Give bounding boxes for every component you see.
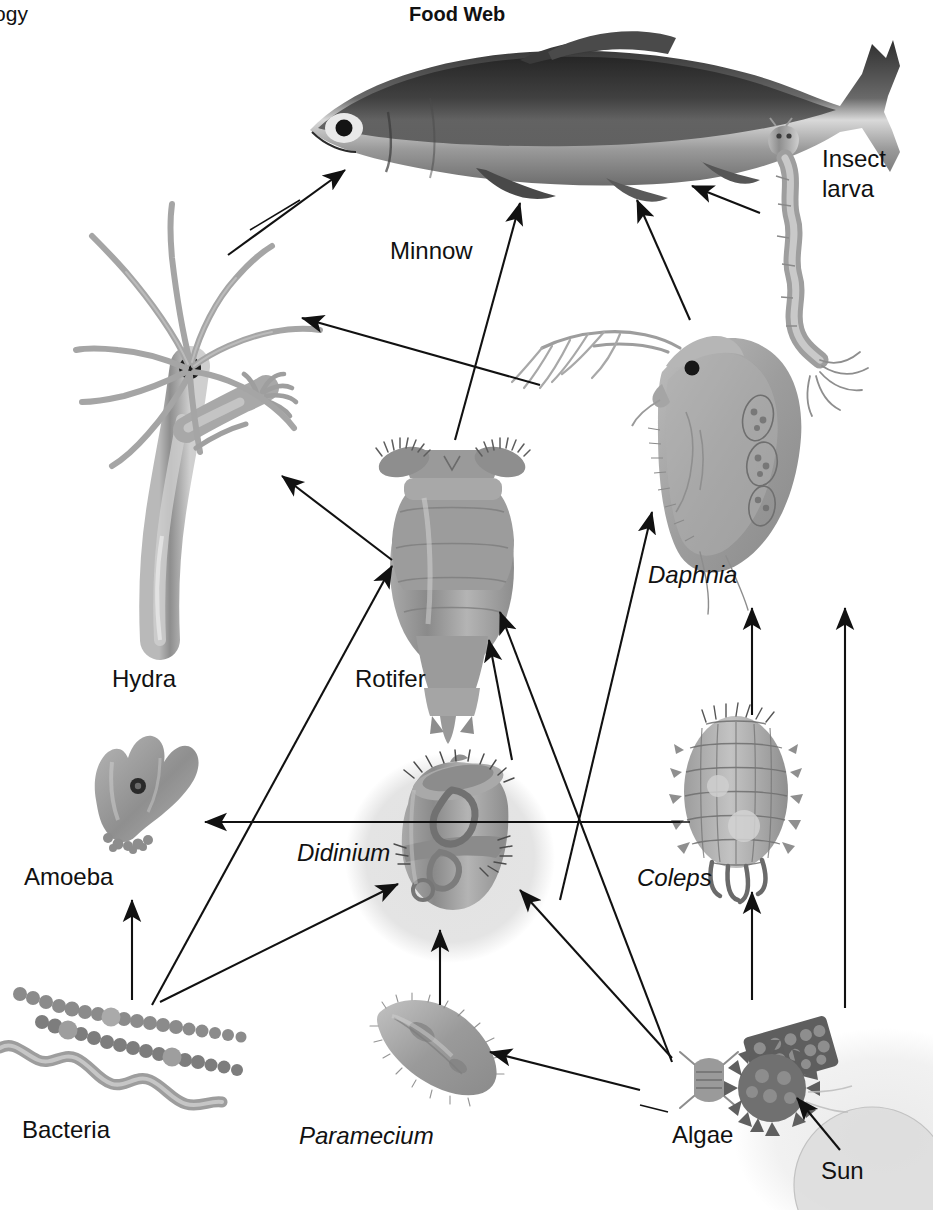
- label-daphnia: Daphnia: [648, 562, 737, 589]
- arrow-algae-to-daphnia: [560, 512, 652, 900]
- label-minnow: Minnow: [390, 238, 473, 265]
- food-web-arrows-layer: [0, 0, 933, 1210]
- arrow-didinium-to-rotifer: [489, 640, 512, 760]
- label-rotifer: Rotifer: [355, 666, 426, 693]
- arrow-bacteria-to-rotifer: [152, 566, 392, 1005]
- arrow-algae-to-didinium: [520, 890, 672, 1058]
- leader-algae-label: [640, 1105, 668, 1112]
- label-larva: larva: [822, 176, 874, 203]
- label-didinium: Didinium: [297, 840, 390, 867]
- arrow-sun-to-algae: [797, 1098, 840, 1150]
- label-hydra: Hydra: [112, 666, 176, 693]
- label-bacteria: Bacteria: [22, 1117, 110, 1144]
- arrow-hydra-to-minnow: [228, 170, 345, 255]
- arrow-daphnia-to-minnow: [637, 200, 690, 320]
- label-insect: Insect: [822, 146, 886, 173]
- figure-title: Food Web: [409, 3, 505, 25]
- running-head: ogy: [0, 2, 28, 26]
- label-amoeba: Amoeba: [24, 864, 113, 891]
- label-algae: Algae: [672, 1122, 733, 1149]
- arrow-algae-to-paramecium: [490, 1052, 640, 1090]
- label-sun: Sun: [821, 1158, 864, 1185]
- leader-hydra-label: [250, 200, 300, 230]
- label-paramecium: Paramecium: [299, 1123, 434, 1150]
- arrow-daphnia-to-hydra: [302, 318, 540, 385]
- label-coleps: Coleps: [637, 865, 712, 892]
- arrow-bacteria-to-didinium: [160, 884, 398, 1002]
- arrow-rotifer-to-hydra: [282, 476, 392, 560]
- arrow-algae-to-rotifer: [500, 612, 672, 1062]
- food-web-figure: ogy Food Web Minnow Insect larva Hydra R…: [0, 0, 933, 1210]
- arrow-insectlarva-to-minnow: [692, 186, 760, 213]
